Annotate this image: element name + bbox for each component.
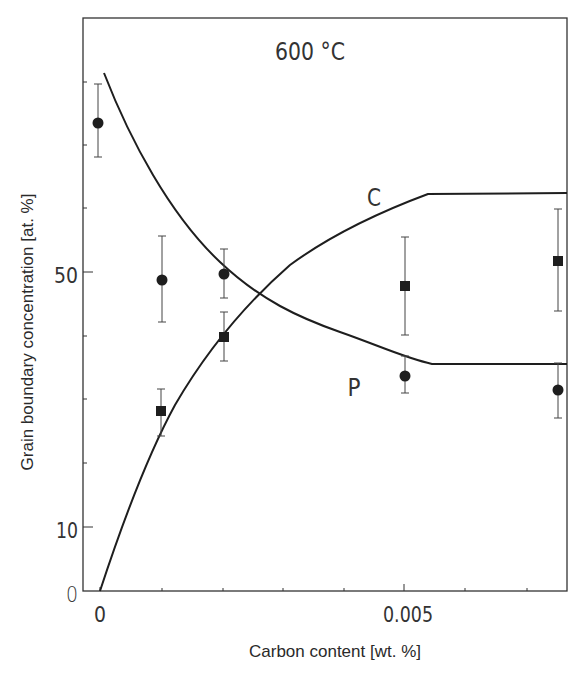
c-point xyxy=(156,406,166,416)
x-tick-0005: 0.005 xyxy=(383,602,433,627)
p-point xyxy=(553,385,564,396)
curve-c-label: C xyxy=(367,184,381,212)
c-point xyxy=(219,332,229,342)
error-bars xyxy=(94,84,562,436)
curve-c xyxy=(100,193,567,591)
p-point xyxy=(157,275,168,286)
x-axis-ticks xyxy=(100,584,527,591)
y-tick-0: 0 xyxy=(66,582,78,607)
tick-labels: 0 10 50 0 0.005 xyxy=(54,263,433,627)
y-tick-10: 10 xyxy=(56,518,78,543)
c-point xyxy=(553,256,563,266)
x-tick-0: 0 xyxy=(94,602,106,627)
series-p-markers xyxy=(93,118,564,396)
curve-p-label: P xyxy=(348,374,361,402)
curve-p xyxy=(104,73,567,364)
y-tick-50: 50 xyxy=(54,263,78,288)
y-axis-ticks xyxy=(83,82,93,527)
temperature-label: 600 °C xyxy=(275,38,345,66)
c-point xyxy=(400,281,410,291)
p-point xyxy=(93,118,104,129)
p-point xyxy=(400,371,411,382)
chart-canvas: 0 10 50 0 0.005 600 °C C P xyxy=(0,0,580,682)
p-point xyxy=(219,269,230,280)
y-axis-label-text: Grain boundary concentration [at. %] xyxy=(18,194,38,471)
x-axis-label: Carbon content [wt. %] xyxy=(0,642,580,662)
plot-frame xyxy=(83,18,567,591)
